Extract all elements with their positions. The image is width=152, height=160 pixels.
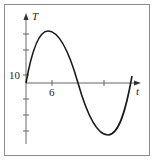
x-tick-label-6: 6 <box>49 86 55 98</box>
y-tick-label-10: 10 <box>9 69 21 81</box>
y-axis-label: T <box>32 10 39 22</box>
sinusoid-chart: T t 10 6 <box>0 0 152 160</box>
